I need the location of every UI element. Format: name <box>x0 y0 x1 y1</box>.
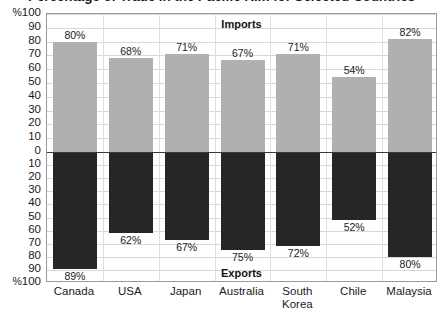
y-axis-tick-label: 90 <box>28 263 41 275</box>
x-axis-label-malaysia: Malaysia <box>381 285 437 298</box>
category-gridline <box>326 14 327 281</box>
y-axis-tick-label: %100 <box>12 276 41 288</box>
value-label-exports-usa: 62% <box>101 234 161 246</box>
value-label-imports-japan: 71% <box>157 41 217 53</box>
bar-exports-chile <box>332 152 376 220</box>
y-axis-tick-label: 70 <box>28 49 41 61</box>
percent-symbol: % <box>12 6 21 18</box>
category-gridline <box>382 14 383 281</box>
bar-imports-canada <box>53 42 97 152</box>
bar-imports-australia <box>221 60 265 152</box>
bar-imports-japan <box>165 54 209 152</box>
y-axis-tick-label: 10 <box>28 131 41 143</box>
x-axis-label-australia: Australia <box>214 285 270 298</box>
value-label-exports-south-korea: 72% <box>268 247 328 259</box>
value-label-imports-chile: 54% <box>324 64 384 76</box>
bar-exports-japan <box>165 152 209 240</box>
x-axis: CanadaUSAJapanAustraliaSouth KoreaChileM… <box>46 285 437 316</box>
bar-imports-chile <box>332 77 376 152</box>
y-axis-tick-label: 20 <box>28 171 41 183</box>
bar-imports-south-korea <box>276 54 320 152</box>
y-axis-tick-label: 50 <box>28 211 41 223</box>
x-axis-label-chile: Chile <box>325 285 381 298</box>
x-axis-label-canada: Canada <box>46 285 102 298</box>
y-axis-tick-label: 0 <box>35 145 41 157</box>
bar-exports-malaysia <box>388 152 432 257</box>
y-axis-tick-label: 80 <box>28 35 41 47</box>
chart-title: Percentage of Trade in the Pacific Rim f… <box>0 0 443 5</box>
y-axis: %100908070605040302010010203040506070809… <box>0 13 44 282</box>
value-label-imports-australia: 67% <box>213 47 273 59</box>
y-axis-tick-label: 30 <box>28 104 41 116</box>
y-axis-tick-label: 60 <box>28 62 41 74</box>
y-axis-tick-label: 10 <box>28 158 41 170</box>
value-label-exports-japan: 67% <box>157 241 217 253</box>
value-label-exports-australia: 75% <box>213 251 273 263</box>
bar-imports-usa <box>109 58 153 152</box>
y-axis-tick-label: 60 <box>28 224 41 236</box>
y-axis-tick-label: 70 <box>28 237 41 249</box>
y-axis-tick-label: 80 <box>28 250 41 262</box>
x-axis-label-usa: USA <box>102 285 158 298</box>
bar-imports-malaysia <box>388 39 432 152</box>
percent-symbol: % <box>12 275 21 287</box>
y-axis-tick-label: %100 <box>12 7 41 19</box>
y-axis-tick-label: 50 <box>28 76 41 88</box>
bar-exports-canada <box>53 152 97 269</box>
gridline <box>47 42 436 43</box>
bar-exports-usa <box>109 152 153 233</box>
bar-exports-south-korea <box>276 152 320 246</box>
value-label-imports-south-korea: 71% <box>268 41 328 53</box>
y-axis-tick-label: 20 <box>28 118 41 130</box>
exports-section-label: Exports <box>47 267 436 279</box>
y-axis-tick-label: 40 <box>28 198 41 210</box>
zero-axis-line <box>47 152 436 153</box>
y-axis-tick-label: 30 <box>28 185 41 197</box>
value-label-imports-canada: 80% <box>46 29 105 41</box>
value-label-imports-usa: 68% <box>101 45 161 57</box>
imports-section-label: Imports <box>47 18 436 30</box>
value-label-exports-chile: 52% <box>324 221 384 233</box>
plot-area: Imports Exports 80%89%68%62%71%67%67%75%… <box>46 13 437 282</box>
x-axis-label-south-korea: South Korea <box>269 285 325 311</box>
y-axis-tick-label: 40 <box>28 90 41 102</box>
gridline <box>47 14 436 15</box>
y-axis-tick-label: 90 <box>28 21 41 33</box>
x-axis-label-japan: Japan <box>158 285 214 298</box>
bar-exports-australia <box>221 152 265 250</box>
